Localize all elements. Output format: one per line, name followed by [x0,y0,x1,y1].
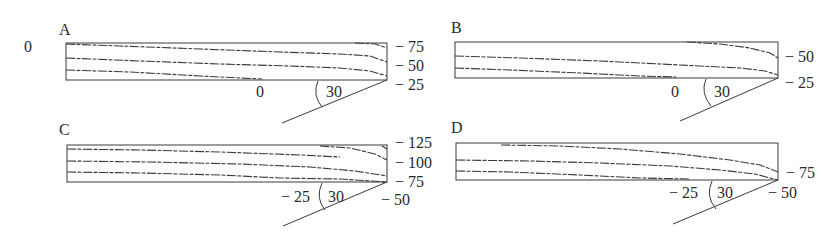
panel-letter-d: D [451,119,463,136]
panel-b-contour-middle [455,56,778,75]
panel-c: C − 125 − 100 − 75 − 50 − 25 30 [59,121,432,226]
panel-c-right-label-2: − 100 [395,154,432,171]
panel-a-right-label-2: − 50 [395,57,424,74]
panel-letter-a: A [59,21,71,38]
panel-d-right-label-1: − 75 [786,164,815,181]
panel-b-bottom-label: 0 [671,83,679,100]
panel-c-contour-top-stub [382,146,387,149]
panel-b-contour-bottom [455,68,676,77]
panel-c-angle-label: 30 [328,188,344,205]
panel-b-angle-label: 30 [714,83,730,100]
stray-zero-label: 0 [24,38,32,55]
panel-a-bottom-label: 0 [256,83,264,100]
panel-a-contour-middle [66,58,387,76]
panel-a-contour-bottom [66,70,262,79]
panel-a-angle-label: 30 [326,83,342,100]
panel-b-right-label-2: − 25 [785,74,814,91]
panel-c-contour-top-right [320,146,387,160]
panel-d-bottom-left-label: − 25 [669,184,698,201]
panel-d: D − 75 − 50 − 25 30 [451,119,815,224]
panel-b-frame [455,42,778,78]
panel-a-angle-arc [316,81,322,107]
panel-c-bottom-left-label: − 25 [281,188,310,205]
panel-a-right-label-1: − 75 [395,38,424,55]
panel-c-contour-middle [67,161,387,176]
panel-c-contour-top [67,149,340,157]
panel-letter-b: B [451,19,462,36]
panel-a: A − 75 − 50 − 25 0 30 [59,21,424,123]
panel-c-right-label-1: − 125 [395,134,432,151]
panel-a-contour-top-stub [355,43,387,48]
panel-b-angle-arc [704,79,711,106]
contour-figure: 0 A − 75 − 50 − 25 0 30 B − 50 − 25 0 30… [0,0,836,238]
panel-d-contour-top [501,145,778,172]
panel-a-right-label-3: − 25 [395,76,424,93]
panel-letter-c: C [59,121,70,138]
panel-d-angle-arc [709,181,716,209]
panel-b-right-label-1: − 50 [785,48,814,65]
panel-b: B − 50 − 25 0 30 [451,19,814,121]
panel-d-angle-label: 30 [717,184,733,201]
panel-a-contour-top [66,44,387,62]
panel-d-bottom-right-label: − 50 [768,184,797,201]
panel-a-frame [66,43,387,80]
panel-c-bottom-right-label: − 50 [381,191,410,208]
panel-d-contour-bottom [456,171,690,179]
panel-c-contour-bottom [67,172,387,182]
panel-c-angle-arc [319,183,325,210]
panel-b-contour-top [687,42,778,58]
panel-c-right-label-3: − 75 [395,173,424,190]
